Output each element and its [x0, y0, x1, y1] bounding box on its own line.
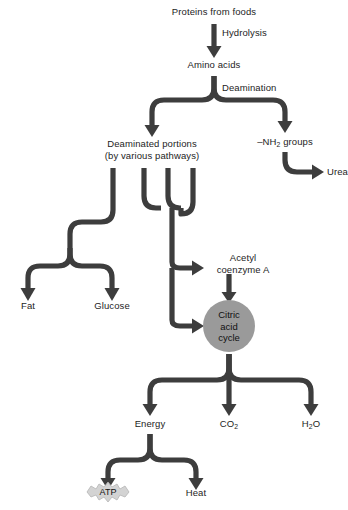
edge-trunk-to-acetyl: [172, 262, 192, 268]
arrowhead-energy: [143, 404, 158, 416]
edge-split-to-glucose: [70, 248, 112, 288]
node-label-nh2-groups: –NH2 groups: [257, 136, 313, 149]
deaminated-line-1: Deaminated portions: [107, 138, 197, 149]
citric-line-1: Citric: [218, 309, 240, 320]
h2o-subscript: 2: [309, 423, 313, 430]
edge-deaminated-prong-1: [70, 168, 113, 248]
citric-acid-cycle-node: Citricacidcycle: [203, 300, 255, 352]
node-label-co2: CO2: [220, 418, 238, 431]
edge-nh2-to-urea: [285, 152, 312, 172]
arrowhead-h2o: [304, 404, 319, 416]
acetyl-line-2: coenzyme A: [217, 264, 270, 275]
citric-acid-cycle-label: Citricacidcycle: [218, 309, 240, 344]
arrowhead-deaminated: [145, 125, 160, 137]
node-label-acetyl-coenzyme-a: Acetylcoenzyme A: [217, 252, 270, 275]
edge-deaminated-prong-3: [168, 168, 181, 208]
node-label-heat: Heat: [186, 487, 206, 499]
arrowhead-urea: [312, 165, 324, 180]
nh2-prefix: –NH: [257, 136, 276, 147]
node-label-energy: Energy: [135, 418, 166, 430]
atp-label: ATP: [100, 487, 117, 497]
edge-label-hydrolysis: Hydrolysis: [222, 27, 267, 38]
atp-badge: ATP: [86, 481, 130, 503]
edge-citric-to-energy: [150, 354, 229, 404]
node-label-urea: Urea: [327, 166, 348, 178]
co2-subscript: 2: [234, 423, 238, 430]
arrowhead-amino-acids: [207, 46, 222, 58]
edge-energy-to-atp: [108, 434, 150, 478]
edge-amino-to-deaminated: [152, 76, 214, 125]
arrowhead-co2: [222, 404, 237, 416]
node-label-deaminated-portions: Deaminated portions(by various pathways): [105, 138, 200, 161]
flow-connectors: [0, 0, 348, 510]
arrowhead-acetyl: [192, 261, 204, 276]
edge-label-deamination: Deamination: [222, 82, 276, 93]
node-label-fat: Fat: [21, 300, 35, 312]
edge-citric-to-h2o: [229, 354, 311, 404]
h2o-suffix: O: [313, 418, 321, 429]
edge-energy-to-heat: [150, 434, 196, 478]
protein-metabolism-diagram: Proteins from foods Hydrolysis Amino aci…: [0, 0, 348, 510]
edge-split-to-fat: [28, 248, 70, 288]
edge-deaminated-prong-4: [181, 168, 193, 214]
arrowhead-nh2: [278, 121, 293, 133]
node-label-amino-acids: Amino acids: [188, 59, 241, 71]
nh2-subscript: 2: [277, 141, 281, 148]
node-label-h2o: H2O: [302, 418, 320, 431]
acetyl-line-1: Acetyl: [230, 252, 256, 263]
edge-deaminated-prong-2: [144, 168, 161, 208]
citric-line-2: acid: [220, 320, 237, 331]
nh2-suffix: groups: [280, 136, 312, 147]
h2o-prefix: H: [302, 418, 309, 429]
citric-line-3: cycle: [218, 332, 240, 343]
co2-prefix: CO: [220, 418, 234, 429]
edge-trunk-to-citric: [172, 268, 192, 326]
node-label-proteins: Proteins from foods: [172, 6, 256, 18]
node-label-glucose: Glucose: [94, 300, 130, 312]
deaminated-line-2: (by various pathways): [105, 150, 200, 161]
